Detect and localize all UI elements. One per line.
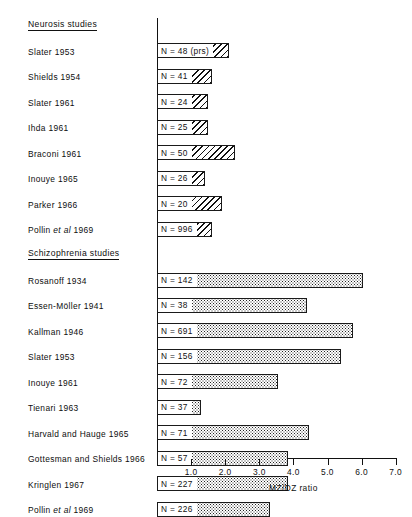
study-label: Essen-Möller 1941 (28, 301, 104, 311)
x-axis-tick (328, 459, 329, 465)
bar-sample-size-label: N = 48 (prs) (158, 44, 213, 57)
study-label: Slater 1953 (28, 47, 75, 57)
study-label: Kringlen 1967 (28, 480, 84, 490)
bar: N = 20 (157, 196, 222, 211)
study-label: Ihda 1961 (28, 123, 68, 133)
study-label-italic: et al (53, 505, 71, 515)
study-label: Harvald and Hauge 1965 (28, 429, 129, 439)
study-label: Inouye 1961 (28, 378, 78, 388)
bar: N = 71 (157, 425, 309, 440)
x-axis-tick-label: 4.0 (287, 467, 300, 477)
study-label: Inouye 1965 (28, 174, 78, 184)
study-label: Braconi 1961 (28, 149, 82, 159)
study-label-italic: et al (53, 225, 71, 235)
bar-sample-size-label: N = 996 (158, 223, 197, 236)
bar-sample-size-label: N = 226 (158, 503, 197, 516)
x-axis-tick (396, 459, 397, 465)
bar: N = 25 (157, 120, 208, 135)
bar-sample-size-label: N = 20 (158, 197, 192, 210)
study-label: Pollin et al 1969 (28, 225, 94, 235)
bar-sample-size-label: N = 691 (158, 324, 197, 337)
bar: N = 37 (157, 400, 201, 415)
x-axis-tick-label: 2.0 (219, 467, 232, 477)
x-axis-tick-label: 1.0 (185, 467, 198, 477)
x-axis-tick-label: 5.0 (321, 467, 334, 477)
bar-sample-size-label: N = 37 (158, 401, 192, 414)
bar-sample-size-label: N = 142 (158, 274, 197, 287)
bar: N = 38 (157, 298, 307, 313)
value-axis-vertical-line (157, 18, 158, 458)
bar-sample-size-label: N = 57 (158, 452, 192, 465)
section-heading: Schizophrenia studies (28, 248, 119, 260)
x-axis-tick (362, 459, 363, 465)
study-label: Slater 1961 (28, 98, 75, 108)
bar: N = 41 (157, 69, 212, 84)
bar: N = 50 (157, 145, 235, 160)
bar-sample-size-label: N = 227 (158, 477, 197, 490)
bar: N = 57 (157, 451, 288, 466)
study-label: Rosanoff 1934 (28, 276, 87, 286)
study-label: Gottesman and Shields 1966 (28, 454, 145, 464)
section-heading: Neurosis studies (28, 19, 97, 31)
bar-sample-size-label: N = 71 (158, 426, 192, 439)
bar-sample-size-label: N = 72 (158, 375, 192, 388)
x-axis-tick (191, 459, 192, 465)
study-label: Kallman 1946 (28, 327, 83, 337)
x-axis-tick-label: 7.0 (389, 467, 402, 477)
x-axis-tick-label: 3.0 (253, 467, 266, 477)
bar: N = 226 (157, 502, 270, 517)
x-axis-title: MZ/DZ ratio (269, 483, 318, 493)
bar-sample-size-label: N = 156 (158, 350, 197, 363)
study-label: Tienari 1963 (28, 403, 78, 413)
x-axis-tick (225, 459, 226, 465)
bar-sample-size-label: N = 41 (158, 70, 192, 83)
bar-sample-size-label: N = 26 (158, 172, 192, 185)
study-label: Parker 1966 (28, 200, 77, 210)
bar: N = 24 (157, 94, 208, 109)
bar: N = 72 (157, 374, 278, 389)
bar-sample-size-label: N = 38 (158, 299, 192, 312)
bar-sample-size-label: N = 25 (158, 121, 192, 134)
study-label: Pollin et al 1969 (28, 505, 94, 515)
bar: N = 26 (157, 171, 205, 186)
bar: N = 156 (157, 349, 341, 364)
bar: N = 996 (157, 222, 212, 237)
study-label: Shields 1954 (28, 72, 81, 82)
x-axis-tick (293, 459, 294, 465)
x-axis-tick-label: 6.0 (355, 467, 368, 477)
bar: N = 142 (157, 273, 363, 288)
bar-sample-size-label: N = 50 (158, 146, 192, 159)
bar-sample-size-label: N = 24 (158, 95, 192, 108)
bar: N = 48 (prs) (157, 43, 229, 58)
bar: N = 691 (157, 323, 353, 338)
x-axis-tick (259, 459, 260, 465)
study-label: Slater 1953 (28, 352, 75, 362)
